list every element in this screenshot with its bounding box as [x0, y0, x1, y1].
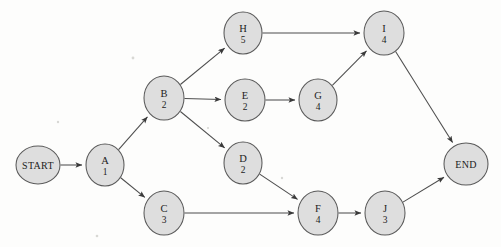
- node-letter-f: F: [315, 203, 321, 214]
- edge-d-to-f: [260, 174, 298, 199]
- node-b[interactable]: B2: [144, 76, 184, 120]
- node-c[interactable]: C3: [144, 191, 184, 235]
- node-duration-b: 2: [162, 100, 167, 110]
- edges-group: [61, 33, 453, 213]
- node-label-start: START: [22, 160, 54, 171]
- node-h[interactable]: H5: [224, 12, 262, 54]
- node-duration-g: 4: [316, 102, 321, 112]
- edge-a-to-c: [121, 178, 145, 198]
- diagram-canvas: 上方裁切文字 — 截断的中文标题行 STARTA1B2C3D2E2F4G4H5I…: [0, 0, 501, 247]
- node-label-end: END: [455, 159, 476, 170]
- node-letter-b: B: [160, 88, 167, 99]
- node-duration-e: 2: [243, 102, 248, 112]
- node-end[interactable]: END: [444, 143, 488, 185]
- network-diagram: STARTA1B2C3D2E2F4G4H5I4J3END: [0, 0, 501, 247]
- node-duration-i: 4: [382, 35, 387, 45]
- node-duration-a: 1: [103, 167, 108, 177]
- node-start[interactable]: START: [16, 146, 60, 184]
- node-letter-e: E: [242, 90, 248, 101]
- node-duration-f: 4: [316, 215, 321, 225]
- node-letter-g: G: [314, 90, 322, 101]
- edge-g-to-i: [332, 51, 366, 86]
- scan-speck: [57, 121, 59, 123]
- edge-b-to-d: [180, 112, 224, 148]
- scan-speck: [281, 177, 283, 179]
- node-letter-d: D: [239, 153, 247, 164]
- node-letter-i: I: [382, 23, 386, 34]
- node-letter-a: A: [101, 155, 109, 166]
- nodes-group: STARTA1B2C3D2E2F4G4H5I4J3END: [16, 11, 488, 235]
- edge-b-to-h: [180, 48, 224, 84]
- scan-speck: [207, 127, 209, 129]
- node-f[interactable]: F4: [298, 191, 338, 235]
- node-i[interactable]: I4: [364, 11, 404, 55]
- node-duration-j: 3: [383, 215, 388, 225]
- node-g[interactable]: G4: [299, 79, 337, 121]
- node-duration-c: 3: [162, 215, 167, 225]
- node-duration-d: 2: [241, 165, 246, 175]
- edge-j-to-end: [403, 177, 444, 202]
- node-letter-c: C: [160, 203, 167, 214]
- node-j[interactable]: J3: [365, 191, 405, 235]
- node-e[interactable]: E2: [225, 79, 265, 121]
- node-duration-h: 5: [241, 35, 246, 45]
- node-letter-h: H: [239, 23, 247, 34]
- node-a[interactable]: A1: [86, 144, 124, 186]
- node-d[interactable]: D2: [224, 142, 262, 184]
- node-letter-j: J: [383, 203, 387, 214]
- edge-b-to-e: [184, 99, 221, 100]
- edge-a-to-b: [119, 117, 148, 150]
- scan-speck: [96, 235, 99, 238]
- scan-speck: [132, 57, 135, 60]
- edge-i-to-end: [396, 52, 453, 143]
